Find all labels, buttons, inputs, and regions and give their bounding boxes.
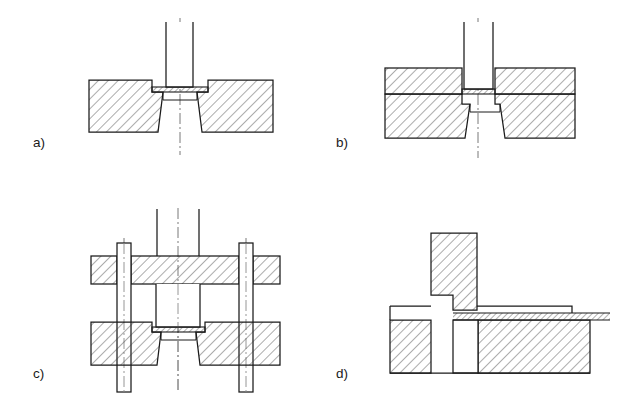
panel-label-c: c) xyxy=(33,366,44,381)
sheet-blank-b xyxy=(462,89,495,94)
panel-d: d) xyxy=(336,233,610,381)
panel-label-d: d) xyxy=(336,366,348,381)
sheet-blank-c xyxy=(152,327,205,332)
slug-cavity-d xyxy=(453,320,478,373)
blank-holder-b-left xyxy=(385,68,462,94)
panel-label-a: a) xyxy=(33,135,45,150)
figure-root: a) b xyxy=(0,0,619,408)
sheet-blank-a xyxy=(152,87,208,92)
die-block-b-left xyxy=(385,94,471,138)
panel-c: c) xyxy=(33,208,282,392)
top-bolster-c-right xyxy=(253,256,280,284)
panel-a: a) xyxy=(33,18,275,155)
panel-label-b: b) xyxy=(336,135,348,150)
die-block-d-right xyxy=(478,320,590,373)
blank-holder-b-right xyxy=(495,68,575,94)
punch-b xyxy=(464,22,493,89)
punch-d xyxy=(431,233,477,310)
top-bolster-c-left xyxy=(91,256,117,284)
die-block-b-right xyxy=(493,94,577,138)
strip-feed-d xyxy=(453,313,610,320)
panel-b: b) xyxy=(336,18,577,158)
die-block-d-left xyxy=(390,320,431,373)
top-bolster-c-middle xyxy=(131,256,239,284)
punch-a xyxy=(166,22,193,87)
blanking-die-figure: a) b xyxy=(0,0,619,408)
